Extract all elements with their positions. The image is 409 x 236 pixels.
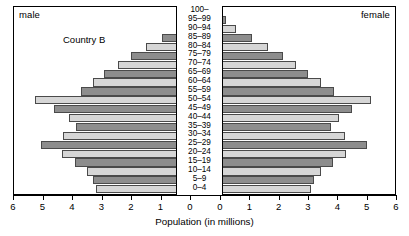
x-axis-line	[13, 195, 396, 196]
bar-female	[220, 123, 331, 131]
axis-tick-label: 3	[305, 201, 310, 212]
bar-female	[220, 43, 268, 51]
bar-female	[220, 158, 333, 166]
bar-male	[76, 123, 190, 131]
age-group-axis: 100–95–9990–9485–8980–8475–7970–7465–696…	[176, 6, 223, 195]
axis-tick	[279, 195, 280, 200]
bar-female	[220, 70, 308, 78]
axis-tick-label: 5	[40, 201, 45, 212]
bar-male	[62, 150, 190, 158]
bar-male	[75, 158, 190, 166]
bar-female	[220, 78, 321, 86]
bar-female	[220, 167, 321, 175]
axis-tick-label: 0	[187, 201, 192, 212]
bar-female	[220, 185, 311, 193]
bar-male	[87, 167, 190, 175]
bar-female	[220, 150, 346, 158]
axis-tick-label: 6	[10, 201, 15, 212]
axis-tick	[249, 195, 250, 200]
axis-tick-label: 4	[335, 201, 340, 212]
bar-male	[35, 96, 190, 104]
bar-male	[69, 114, 190, 122]
age-group-label: 0–4	[177, 184, 222, 193]
population-pyramid-chart: male female Country B 100–95–9990–9485–8…	[0, 0, 409, 236]
axis-tick-label: 5	[364, 201, 369, 212]
axis-tick	[102, 195, 103, 200]
axis-tick-label: 1	[158, 201, 163, 212]
bar-male	[54, 105, 190, 113]
axis-tick	[13, 195, 14, 200]
bar-female	[220, 114, 339, 122]
axis-tick-label: 2	[276, 201, 281, 212]
axis-tick	[308, 195, 309, 200]
axis-tick	[220, 195, 221, 200]
axis-tick	[337, 195, 338, 200]
axis-tick	[72, 195, 73, 200]
axis-tick-label: 1	[247, 201, 252, 212]
x-axis-title: Population (in millions)	[0, 216, 409, 227]
axis-tick-label: 3	[99, 201, 104, 212]
axis-tick-label: 6	[393, 201, 398, 212]
bar-female	[220, 96, 371, 104]
bar-female	[220, 132, 345, 140]
bar-male	[41, 141, 190, 149]
bar-female	[220, 61, 296, 69]
bar-female	[220, 141, 367, 149]
bar-male	[63, 132, 190, 140]
bar-female	[220, 87, 334, 95]
bar-female	[220, 52, 283, 60]
axis-tick	[161, 195, 162, 200]
axis-tick	[396, 195, 397, 200]
bar-female	[220, 34, 252, 42]
axis-tick	[190, 195, 191, 200]
bar-female	[220, 176, 314, 184]
axis-tick-label: 0	[217, 201, 222, 212]
axis-tick	[131, 195, 132, 200]
axis-tick-label: 4	[69, 201, 74, 212]
axis-tick-label: 2	[128, 201, 133, 212]
bar-male	[81, 87, 190, 95]
axis-tick	[43, 195, 44, 200]
axis-tick	[367, 195, 368, 200]
bar-female	[220, 105, 352, 113]
